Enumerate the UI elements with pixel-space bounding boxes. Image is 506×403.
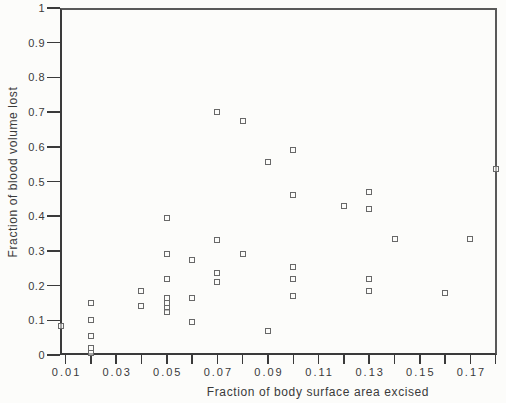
y-tick: [47, 77, 60, 79]
data-point: [290, 276, 296, 282]
y-tick: [47, 111, 60, 113]
y-tick-label: 0.6: [28, 141, 45, 153]
data-point: [214, 109, 220, 115]
data-point: [290, 147, 296, 153]
data-point: [493, 166, 499, 172]
y-tick-label: 0.4: [28, 210, 45, 222]
y-tick: [47, 320, 60, 322]
x-tick-label: 0.11: [305, 366, 334, 378]
data-point: [366, 276, 372, 282]
data-point: [88, 300, 94, 306]
data-point: [341, 203, 347, 209]
x-tick: [191, 355, 193, 364]
y-tick-label: 0.2: [28, 280, 45, 292]
data-point: [164, 276, 170, 282]
scatter-figure: Fraction of blood volume lost Fraction o…: [0, 0, 506, 403]
data-point: [189, 319, 195, 325]
y-tick: [47, 354, 60, 356]
data-point: [88, 350, 94, 356]
data-point: [290, 264, 296, 270]
x-tick: [318, 355, 320, 364]
data-point: [88, 317, 94, 323]
x-tick: [394, 355, 396, 364]
y-tick-label: 0: [38, 349, 45, 361]
plot-area: [60, 8, 497, 355]
y-tick-label: 0.9: [28, 37, 45, 49]
x-tick: [90, 355, 92, 364]
data-point: [240, 118, 246, 124]
x-tick: [293, 355, 295, 364]
y-tick: [47, 146, 60, 148]
x-tick-label: 0.17: [457, 366, 486, 378]
x-tick-label: 0.03: [102, 366, 131, 378]
data-point: [290, 192, 296, 198]
y-tick: [47, 285, 60, 287]
data-point: [366, 206, 372, 212]
y-tick-label: 0.1: [28, 314, 45, 326]
data-point: [189, 295, 195, 301]
x-tick-label: 0.05: [153, 366, 182, 378]
y-tick-label: 0.7: [28, 106, 45, 118]
y-tick: [47, 181, 60, 183]
x-tick-label: 0.09: [254, 366, 283, 378]
data-point: [442, 290, 448, 296]
data-point: [290, 293, 296, 299]
data-point: [88, 333, 94, 339]
x-tick-label: 0.01: [52, 366, 81, 378]
y-tick-label: 0.3: [28, 245, 45, 257]
x-tick: [343, 355, 345, 364]
y-tick-label: 0.5: [28, 176, 45, 188]
data-point: [214, 279, 220, 285]
x-tick: [419, 355, 421, 364]
x-tick: [141, 355, 143, 364]
data-point: [392, 236, 398, 242]
x-tick-label: 0.15: [406, 366, 435, 378]
y-tick: [47, 42, 60, 44]
data-point: [189, 257, 195, 263]
x-tick-label: 0.07: [204, 366, 233, 378]
data-point: [138, 303, 144, 309]
y-tick-label: 1: [38, 2, 45, 14]
x-tick: [444, 355, 446, 364]
x-tick: [217, 355, 219, 364]
data-point: [164, 251, 170, 257]
y-axis-title: Fraction of blood volume lost: [6, 87, 20, 258]
data-point: [214, 270, 220, 276]
y-tick: [47, 250, 60, 252]
x-tick: [166, 355, 168, 364]
data-point: [366, 288, 372, 294]
data-point: [58, 323, 64, 329]
x-tick: [368, 355, 370, 364]
data-point: [366, 189, 372, 195]
x-tick: [495, 355, 497, 364]
data-point: [214, 237, 220, 243]
data-point: [138, 288, 144, 294]
data-point: [164, 309, 170, 315]
x-axis-title: Fraction of body surface area excised: [207, 385, 429, 399]
data-point: [265, 159, 271, 165]
y-tick: [47, 7, 60, 9]
data-point: [467, 236, 473, 242]
x-tick-label: 0.13: [355, 366, 384, 378]
x-tick: [470, 355, 472, 364]
x-tick: [242, 355, 244, 364]
data-point: [265, 328, 271, 334]
y-tick-label: 0.8: [28, 71, 45, 83]
data-point: [240, 251, 246, 257]
y-tick: [47, 215, 60, 217]
x-tick: [115, 355, 117, 364]
x-tick: [267, 355, 269, 364]
data-point: [164, 215, 170, 221]
x-tick: [65, 355, 67, 364]
